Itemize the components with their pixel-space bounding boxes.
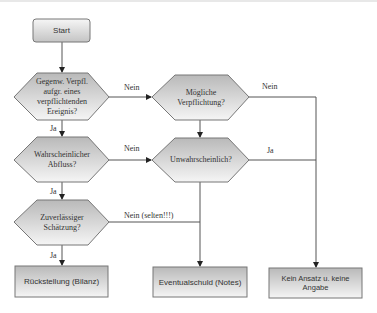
outcome-o3-label: Kein Ansatz u. keine Angabe bbox=[269, 268, 362, 298]
decision-d4-label: Unwahrscheinlich? bbox=[160, 138, 242, 182]
decision-d1-label: Gegenw. Verpfl. aufgr. eines verpflichte… bbox=[30, 74, 94, 120]
start-label: Start bbox=[33, 19, 90, 42]
outcome-o1-label: Rückstellung (Bilanz) bbox=[15, 266, 108, 297]
edge-label-d3-d5: Ja bbox=[50, 187, 57, 196]
edge-label-d5-o1: Ja bbox=[50, 251, 57, 260]
edge-label-d3-d4: Nein bbox=[124, 144, 140, 153]
edge-label-d5-o2: Nein (selten!!!) bbox=[124, 211, 174, 220]
decision-d3-label: Wahrscheinlicher Abfluss? bbox=[28, 137, 96, 182]
decision-d5-label: Zuverlässiger Schätzung? bbox=[30, 200, 94, 245]
edge-label-d1-d3: Ja bbox=[50, 124, 57, 133]
edge-label-d1-d2: Nein bbox=[124, 83, 140, 92]
outcome-o2-label: Eventualschuld (Notes) bbox=[153, 267, 247, 297]
edge-label-d2-o3: Nein bbox=[262, 82, 278, 91]
decision-d2-label: Mögliche Verpflichtung? bbox=[170, 75, 232, 120]
edge-label-d4-o3: Ja bbox=[267, 146, 274, 155]
